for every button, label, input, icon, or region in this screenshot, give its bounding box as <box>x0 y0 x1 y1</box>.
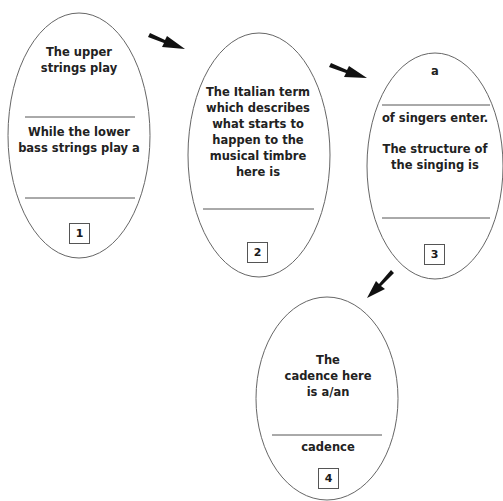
text-line: happen to the <box>198 132 318 148</box>
text-line: here is <box>198 164 318 180</box>
step-number-2: 2 <box>247 242 268 263</box>
step-number-1: 1 <box>69 223 90 244</box>
arrow-icon-1-to-2 <box>148 33 185 49</box>
text-line: musical timbre <box>198 148 318 164</box>
step-3-prompt-top: a <box>395 63 475 79</box>
text-line: is a/an <box>275 384 381 400</box>
text-line: of singers enter. <box>378 110 492 126</box>
text-line: While the lower <box>15 124 143 140</box>
text-line: The structure of <box>378 141 492 157</box>
step-1-prompt-top: The upper strings play <box>20 44 138 76</box>
text-line: cadence <box>285 439 371 455</box>
step-2-prompt: The Italian term which describes what st… <box>198 84 318 180</box>
text-line: The <box>275 352 381 368</box>
text-line: what starts to <box>198 116 318 132</box>
text-line: bass strings play a <box>15 140 143 156</box>
step-number-3: 3 <box>424 244 445 265</box>
text-line: strings play <box>20 60 138 76</box>
step-1-prompt-middle: While the lower bass strings play a <box>15 124 143 156</box>
step-4-suffix: cadence <box>285 439 371 455</box>
step-3-prompt-middle: of singers enter. <box>378 110 492 126</box>
text-line: The Italian term <box>198 84 318 100</box>
text-line: which describes <box>198 100 318 116</box>
step-4-prompt: The cadence here is a/an <box>275 352 381 400</box>
text-line: a <box>395 63 475 79</box>
arrow-icon-3-to-4 <box>367 270 394 298</box>
text-line: The upper <box>20 44 138 60</box>
text-line: the singing is <box>378 157 492 173</box>
step-number-4: 4 <box>318 468 339 489</box>
step-3-prompt-lower: The structure of the singing is <box>378 141 492 173</box>
arrow-icon-2-to-3 <box>329 63 367 78</box>
text-line: cadence here <box>275 368 381 384</box>
